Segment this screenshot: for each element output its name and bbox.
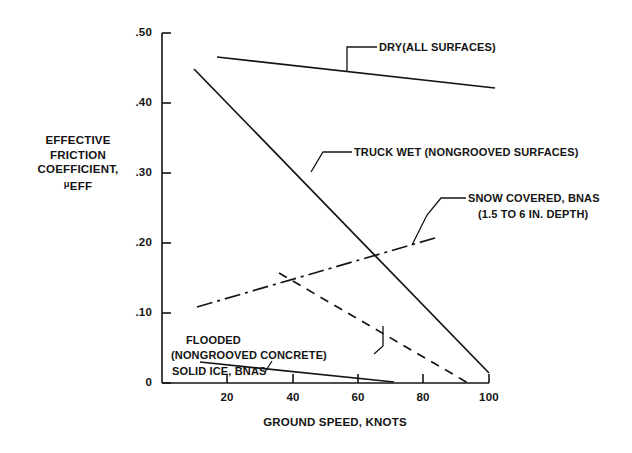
y-axis-title: EFFECTIVE FRICTION COEFFICIENT, μEFF — [8, 133, 148, 193]
y-axis-ticks — [162, 33, 171, 383]
annotation-flooded-line-1: FLOODED — [186, 333, 241, 347]
annotation-snow-covered-line-2: (1.5 TO 6 IN. DEPTH) — [478, 207, 588, 221]
x-tick-label-100: 100 — [472, 391, 506, 403]
series-line-flooded — [279, 273, 468, 383]
y-axis-title-line-2: FRICTION — [8, 148, 148, 163]
mu-subscript: EFF — [70, 180, 92, 192]
y-tick-label-30: .30 — [120, 166, 152, 178]
annotation-solid-ice: SOLID ICE, BNAS — [172, 364, 267, 378]
x-tick-label-80: 80 — [406, 391, 440, 403]
y-tick-label-20: .20 — [120, 236, 152, 248]
y-tick-label-0: 0 — [120, 376, 152, 388]
annotation-flooded-line-2: (NONGROOVED CONCRETE) — [171, 348, 327, 362]
leader-dry — [347, 47, 377, 72]
y-axis-title-line-4: μEFF — [8, 177, 148, 194]
y-tick-label-50: .50 — [120, 26, 152, 38]
leader-truck-wet — [311, 152, 352, 172]
friction-coefficient-chart — [0, 0, 632, 453]
annotation-truck-wet: TRUCK WET (NONGROOVED SURFACES) — [354, 145, 579, 159]
y-tick-label-10: .10 — [120, 306, 152, 318]
y-tick-label-40: .40 — [120, 96, 152, 108]
x-tick-label-20: 20 — [210, 391, 244, 403]
annotation-dry: DRY(ALL SURFACES) — [379, 40, 496, 54]
x-axis-title: GROUND SPEED, KNOTS — [190, 416, 480, 428]
series-line-truck-wet — [194, 69, 489, 373]
series-line-dry — [217, 57, 495, 88]
leader-snow-covered — [412, 198, 466, 245]
series-line-snow-covered — [197, 238, 435, 307]
y-axis-title-line-1: EFFECTIVE — [8, 133, 148, 148]
x-tick-label-60: 60 — [341, 391, 375, 403]
annotation-snow-covered-line-1: SNOW COVERED, BNAS — [468, 191, 600, 205]
x-tick-label-40: 40 — [276, 391, 310, 403]
